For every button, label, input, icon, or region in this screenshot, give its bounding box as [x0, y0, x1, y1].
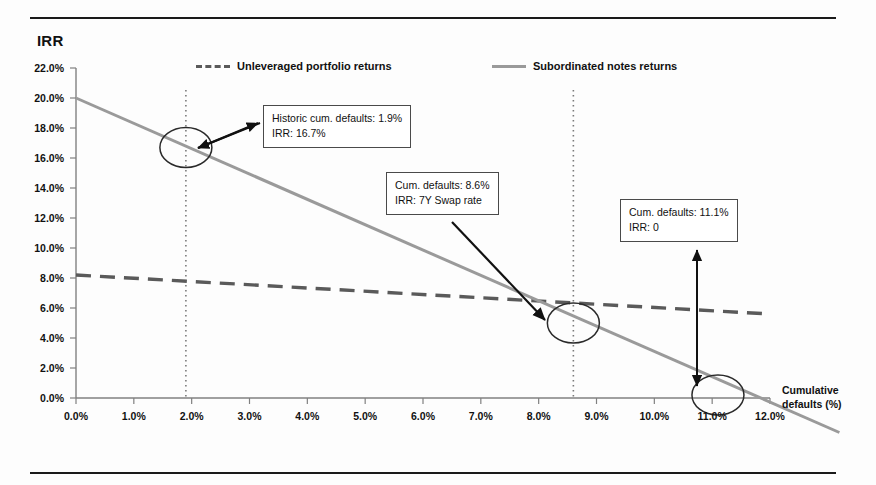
x-tick-label: 3.0%	[224, 410, 276, 422]
y-tick-label: 22.0%	[18, 62, 64, 74]
y-tick-label: 6.0%	[18, 302, 64, 314]
y-axis-ticks	[70, 68, 76, 398]
callout-historic-line2: IRR: 16.7%	[272, 126, 402, 141]
callout-historic-defaults[interactable]: Historic cum. defaults: 1.9% IRR: 16.7%	[263, 105, 411, 148]
x-tick-label: 9.0%	[571, 410, 623, 422]
y-tick-label: 18.0%	[18, 122, 64, 134]
legend-item-subordinated[interactable]: Subordinated notes returns	[492, 60, 677, 72]
x-tick-label: 8.0%	[513, 410, 565, 422]
callout-zero-irr[interactable]: Cum. defaults: 11.1% IRR: 0	[620, 199, 738, 242]
y-tick-label: 2.0%	[18, 362, 64, 374]
x-tick-label: 11.0%	[686, 410, 738, 422]
y-tick-label: 12.0%	[18, 212, 64, 224]
y-tick-label: 4.0%	[18, 332, 64, 344]
legend-solid-swatch-icon	[492, 65, 526, 68]
callout-zero-line2: IRR: 0	[629, 220, 729, 235]
legend-label-unleveraged: Unleveraged portfolio returns	[237, 60, 392, 72]
data-point-markers	[160, 128, 744, 416]
x-tick-label: 0.0%	[50, 410, 102, 422]
x-tick-label: 1.0%	[108, 410, 160, 422]
y-tick-label: 8.0%	[18, 272, 64, 284]
callout-swap-line2: IRR: 7Y Swap rate	[395, 193, 490, 208]
x-axis-title: Cumulative defaults (%)	[782, 383, 866, 411]
callout-swap-rate[interactable]: Cum. defaults: 8.6% IRR: 7Y Swap rate	[386, 172, 499, 215]
x-tick-label: 2.0%	[166, 410, 218, 422]
y-tick-label: 20.0%	[18, 92, 64, 104]
callout-zero-line1: Cum. defaults: 11.1%	[629, 205, 729, 220]
x-tick-label: 12.0%	[744, 410, 796, 422]
legend-dash-swatch-icon	[196, 65, 230, 68]
annotation-arrows	[198, 123, 697, 386]
callout-historic-line1: Historic cum. defaults: 1.9%	[272, 111, 402, 126]
x-axis-ticks	[76, 398, 770, 404]
y-tick-label: 14.0%	[18, 182, 64, 194]
legend-label-subordinated: Subordinated notes returns	[533, 60, 677, 72]
y-tick-label: 16.0%	[18, 152, 64, 164]
series-lines	[76, 98, 839, 433]
series-line-0	[76, 275, 770, 314]
series-line-1	[76, 98, 839, 433]
chart-page: IRR Unleveraged portfolio	[0, 0, 876, 485]
x-tick-label: 4.0%	[281, 410, 333, 422]
x-tick-label: 10.0%	[628, 410, 680, 422]
callout-swap-line1: Cum. defaults: 8.6%	[395, 178, 490, 193]
y-tick-label: 10.0%	[18, 242, 64, 254]
arrow-to-swap-marker	[452, 222, 545, 320]
zero-irr-marker	[692, 375, 744, 415]
y-tick-label: 0.0%	[18, 392, 64, 404]
x-tick-label: 7.0%	[455, 410, 507, 422]
x-tick-label: 6.0%	[397, 410, 449, 422]
legend-item-unleveraged[interactable]: Unleveraged portfolio returns	[196, 60, 392, 72]
x-tick-label: 5.0%	[339, 410, 391, 422]
